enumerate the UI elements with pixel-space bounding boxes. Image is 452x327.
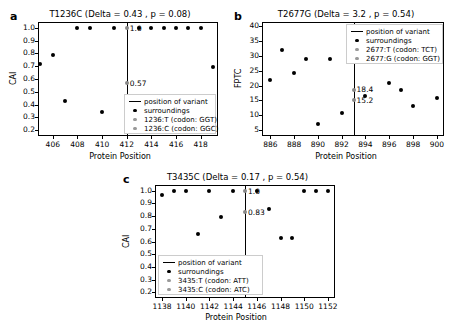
y-tick-label: 15 <box>234 95 259 104</box>
y-tick-label: 0.8 <box>127 211 152 220</box>
x-tick-mark <box>151 136 152 139</box>
legend-label-variant-line: position of variant <box>142 98 208 106</box>
legend-row-alt-allele: 2677:G (codon: GGT) <box>350 54 439 63</box>
x-tick-mark <box>437 136 438 139</box>
ref-allele-dot-icon <box>162 279 176 283</box>
legend-row-variant-line: position of variant <box>162 258 259 267</box>
y-tick-label: 0.8 <box>10 48 35 57</box>
legend-row-alt-allele: 3435:C (codon: ATC) <box>162 285 259 294</box>
y-tick-mark <box>35 79 38 80</box>
y-tick-mark <box>259 56 262 57</box>
y-tick-mark <box>35 130 38 131</box>
x-tick-mark <box>53 136 54 139</box>
ref-allele-dot-icon <box>350 48 364 52</box>
x-tick-label: 900 <box>423 140 451 149</box>
y-tick-mark <box>259 41 262 42</box>
y-tick-mark <box>35 117 38 118</box>
x-tick-mark <box>257 298 258 301</box>
y-tick-mark <box>35 53 38 54</box>
y-tick-mark <box>152 229 155 230</box>
y-tick-label: 0.9 <box>127 198 152 207</box>
y-tick-mark <box>152 191 155 192</box>
legend-label-surroundings: surroundings <box>176 268 224 276</box>
y-tick-label: 0.5 <box>10 87 35 96</box>
surroundings-dot-icon <box>128 109 142 113</box>
y-tick-label: 0.3 <box>10 112 35 121</box>
alt-allele-dot-icon <box>128 127 142 131</box>
x-tick-mark <box>328 298 329 301</box>
y-tick-mark <box>259 100 262 101</box>
figure-root: a T1236C (Delta = 0.43 , p = 0.08) CAI P… <box>0 0 452 327</box>
legend-label-variant-line: position of variant <box>364 28 430 36</box>
variant-line-icon <box>350 31 364 32</box>
panel-a: a T1236C (Delta = 0.43 , p = 0.08) CAI P… <box>0 0 226 165</box>
legend-label-surroundings: surroundings <box>142 107 190 115</box>
y-tick-label: 0.4 <box>10 100 35 109</box>
x-tick-mark <box>342 136 343 139</box>
y-tick-mark <box>152 216 155 217</box>
x-tick-mark <box>233 298 234 301</box>
y-tick-mark <box>259 130 262 131</box>
legend-row-surroundings: surroundings <box>128 106 212 115</box>
y-tick-label: 0.2 <box>127 287 152 296</box>
ref-allele-dot-icon <box>128 118 142 122</box>
y-tick-mark <box>152 254 155 255</box>
panel-a-ticks: 0.20.30.40.50.60.70.80.91.04064084104124… <box>0 0 226 165</box>
legend-row-ref-allele: 3435:T (codon: ATT) <box>162 276 259 285</box>
y-tick-mark <box>152 292 155 293</box>
x-tick-label: 1152 <box>314 302 342 311</box>
y-tick-label: 40 <box>234 21 259 30</box>
x-tick-mark <box>102 136 103 139</box>
x-tick-mark <box>270 136 271 139</box>
legend-row-variant-line: position of variant <box>350 27 439 36</box>
panel-b: b T2677G (Delta = 3.2 , p = 0.54) FPTC P… <box>226 0 452 165</box>
legend-row-ref-allele: 2677:T (codon: TCT) <box>350 45 439 54</box>
y-tick-mark <box>259 115 262 116</box>
x-tick-mark <box>162 298 163 301</box>
x-tick-mark <box>201 136 202 139</box>
panel-c-legend: position of variant surroundings 3435:T … <box>158 255 263 295</box>
legend-label-surroundings: surroundings <box>364 37 412 45</box>
y-tick-mark <box>35 41 38 42</box>
y-tick-label: 10 <box>234 110 259 119</box>
legend-label-alt-allele: 3435:C (codon: ATC) <box>176 286 250 294</box>
variant-line-icon <box>128 101 142 102</box>
x-tick-mark <box>209 298 210 301</box>
y-tick-label: 0.2 <box>10 125 35 134</box>
panel-c-ticks: 0.20.30.40.50.60.70.80.91.01138114011421… <box>113 165 345 327</box>
legend-row-ref-allele: 1236:T (codon: GGT) <box>128 115 212 124</box>
y-tick-mark <box>152 280 155 281</box>
x-tick-mark <box>318 136 319 139</box>
alt-allele-dot-icon <box>350 57 364 61</box>
y-tick-label: 0.6 <box>10 74 35 83</box>
x-tick-mark <box>176 136 177 139</box>
y-tick-label: 0.6 <box>127 237 152 246</box>
legend-row-alt-allele: 1236:C (codon: GGC) <box>128 124 212 133</box>
legend-row-surroundings: surroundings <box>350 36 439 45</box>
y-tick-mark <box>35 92 38 93</box>
x-tick-mark <box>281 298 282 301</box>
y-tick-mark <box>259 26 262 27</box>
y-tick-label: 35 <box>234 36 259 45</box>
y-tick-label: 5 <box>234 125 259 134</box>
x-tick-mark <box>294 136 295 139</box>
legend-row-surroundings: surroundings <box>162 267 259 276</box>
alt-allele-dot-icon <box>162 288 176 292</box>
legend-label-ref-allele: 2677:T (codon: TCT) <box>364 46 437 54</box>
y-tick-label: 0.5 <box>127 249 152 258</box>
x-tick-mark <box>127 136 128 139</box>
y-tick-label: 0.3 <box>127 275 152 284</box>
legend-label-variant-line: position of variant <box>176 259 242 267</box>
y-tick-label: 1.0 <box>127 186 152 195</box>
x-tick-mark <box>186 298 187 301</box>
y-tick-label: 30 <box>234 51 259 60</box>
y-tick-label: 0.4 <box>127 262 152 271</box>
legend-row-variant-line: position of variant <box>128 97 212 106</box>
legend-label-alt-allele: 1236:C (codon: GGC) <box>142 125 218 133</box>
y-tick-label: 0.7 <box>10 61 35 70</box>
surroundings-dot-icon <box>350 39 364 43</box>
panel-a-legend: position of variant surroundings 1236:T … <box>124 94 216 134</box>
variant-line-icon <box>162 262 176 263</box>
y-tick-label: 0.9 <box>10 36 35 45</box>
y-tick-mark <box>35 105 38 106</box>
